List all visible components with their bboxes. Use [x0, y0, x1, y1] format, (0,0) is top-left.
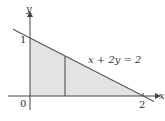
tick-label-origin: 0 — [20, 98, 26, 109]
region-diagram: y x 1 0 2 x + 2y = 2 — [0, 0, 165, 121]
tick-label-2: 2 — [139, 99, 145, 110]
tick-label-1: 1 — [20, 34, 26, 45]
x-axis-label: x — [159, 90, 165, 101]
equation-label: x + 2y = 2 — [88, 54, 142, 65]
y-axis-label: y — [25, 3, 32, 14]
